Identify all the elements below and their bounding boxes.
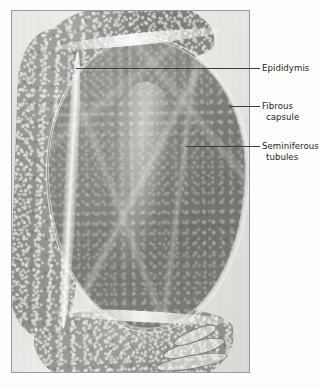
- label-epididymis: Epididymis: [262, 63, 309, 74]
- label-fibrous-capsule-line2: capsule: [262, 112, 299, 123]
- leader-line-seminiferous-tubules: [186, 146, 260, 147]
- label-fibrous-capsule-line1: Fibrous: [262, 101, 293, 111]
- micrograph-plate: [11, 10, 250, 373]
- label-seminiferous-tubules-line1: Seminiferous: [262, 141, 319, 151]
- label-seminiferous-tubules-line2: tubules: [262, 152, 319, 163]
- leader-line-fibrous-capsule: [229, 106, 260, 107]
- histology-figure: Epididymis Fibrous capsule Seminiferous …: [0, 0, 322, 388]
- label-epididymis-line1: Epididymis: [262, 63, 309, 73]
- leader-line-epididymis: [76, 68, 260, 69]
- label-fibrous-capsule: Fibrous capsule: [262, 101, 299, 122]
- label-seminiferous-tubules: Seminiferous tubules: [262, 141, 319, 162]
